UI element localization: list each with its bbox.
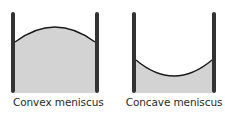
concave-meniscus-label: Concave meniscus: [124, 96, 224, 108]
convex-left-wall: [11, 12, 15, 93]
convex-tube: [11, 12, 99, 93]
convex-right-wall: [95, 12, 99, 93]
concave-right-wall: [212, 12, 216, 93]
convex-meniscus-label: Convex meniscus: [13, 96, 99, 108]
concave-left-wall: [132, 12, 136, 93]
concave-tube: [132, 12, 216, 93]
convex-liquid: [15, 27, 95, 93]
